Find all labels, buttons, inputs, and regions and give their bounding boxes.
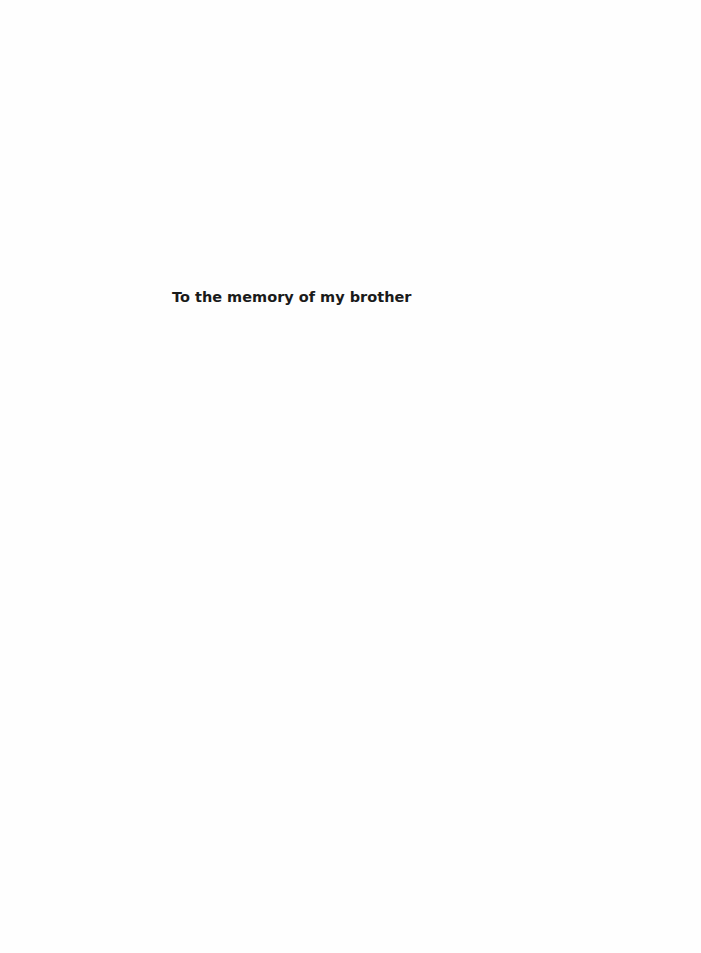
dedication-text: To the memory of my brother [172, 287, 411, 307]
book-page: To the memory of my brother [0, 0, 701, 953]
